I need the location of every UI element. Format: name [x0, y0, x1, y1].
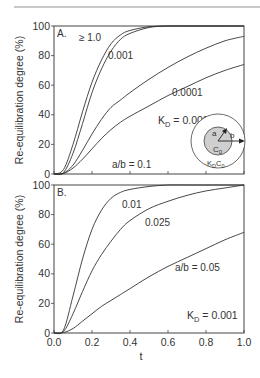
y-tick-label: 80 [38, 208, 50, 220]
x-tick-label: 0.8 [199, 336, 214, 348]
kd-note-b: KD = 0.001 [187, 309, 238, 324]
y-tick-label: 100 [32, 20, 50, 32]
inset-b-label: b [230, 131, 235, 140]
curve-label-kd-00001: 0.0001 [172, 87, 203, 98]
y-tick-label: 20 [38, 138, 50, 150]
y-tick-label: 80 [38, 49, 50, 61]
panel-a-label: A. [57, 28, 66, 39]
ab-ratio-note: a/b = 0.1 [112, 159, 152, 170]
x-tick-label: 1.0 [237, 336, 252, 348]
curve-label-kd-0001: 0.001 [108, 50, 133, 61]
x-axis-title: t [139, 350, 142, 362]
curve-label-ab-0025: 0.025 [145, 217, 170, 228]
y-tick-label: 20 [38, 297, 50, 309]
x-tick-label: 0.0 [47, 336, 62, 348]
x-tick-label: 0.6 [161, 336, 176, 348]
y-tick-label: 40 [38, 108, 50, 120]
panel-a: 020406080100 A. ≥ 1.0 0.001 0.0001 KD = … [32, 20, 245, 180]
y-axis-title-a: Re-equilibration degree (%) [13, 36, 25, 164]
curve-label-ab-005: a/b = 0.05 [175, 262, 220, 273]
curve-label-ab-001: 0.01 [122, 199, 142, 210]
y-axis-title-b: Re-equilibration degree (%) [13, 195, 25, 323]
figure: Re-equilibration degree (%) Re-equilibra… [0, 0, 260, 378]
x-axis-tick-labels: 0.00.20.40.60.81.0 [47, 336, 252, 348]
inset-a-label: a [212, 129, 217, 138]
x-tick-label: 0.2 [85, 336, 100, 348]
x-tick-label: 0.4 [123, 336, 138, 348]
y-tick-label: 40 [38, 267, 50, 279]
y-tick-label: 60 [38, 79, 50, 91]
curve-label-kd-1: ≥ 1.0 [79, 32, 102, 43]
y-tick-label: 60 [38, 238, 50, 250]
panel-b: 020406080100 B. 0.01 0.025 a/b = 0.05 KD… [32, 179, 244, 339]
panel-b-label: B. [57, 187, 66, 198]
inset-diagram: a b C0 KDC0 [191, 114, 245, 169]
y-tick-label: 100 [32, 179, 50, 191]
